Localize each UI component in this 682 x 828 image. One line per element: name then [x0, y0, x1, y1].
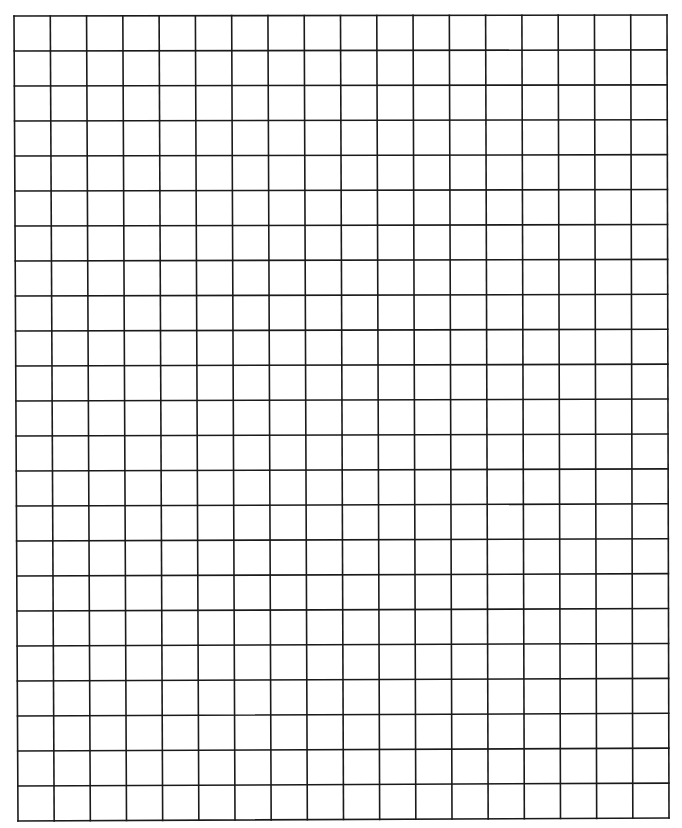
- grid-vertical-line: [304, 16, 307, 820]
- grid-horizontal-line: [16, 504, 668, 506]
- grid-horizontal-line: [14, 50, 667, 51]
- grid-horizontal-line: [16, 329, 668, 331]
- grid: [0, 0, 682, 828]
- grid-vertical-line: [667, 15, 669, 818]
- grid-vertical-line: [449, 15, 452, 819]
- grid-vertical-line: [87, 16, 91, 821]
- grid-vertical-line: [377, 15, 380, 819]
- grid-vertical-line: [14, 16, 18, 821]
- grid-lines: [14, 15, 669, 821]
- grid-vertical-line: [413, 15, 416, 819]
- grid-vertical-line: [123, 16, 127, 821]
- grid-vertical-line: [232, 16, 235, 820]
- graph-paper-page: [0, 0, 682, 828]
- grid-horizontal-line: [15, 294, 667, 296]
- grid-vertical-line: [50, 16, 54, 821]
- grid-vertical-line: [594, 15, 596, 818]
- grid-horizontal-line: [15, 155, 668, 156]
- grid-horizontal-line: [16, 364, 668, 366]
- grid-vertical-line: [522, 15, 524, 818]
- grid-horizontal-line: [15, 120, 668, 121]
- grid-horizontal-line: [14, 15, 667, 16]
- grid-horizontal-line: [16, 434, 668, 436]
- grid-horizontal-line: [15, 190, 668, 191]
- grid-vertical-line: [631, 15, 633, 818]
- grid-vertical-line: [195, 16, 198, 820]
- grid-vertical-line: [159, 16, 163, 821]
- grid-horizontal-line: [14, 85, 667, 86]
- grid-vertical-line: [268, 16, 271, 820]
- grid-horizontal-line: [15, 259, 667, 261]
- grid-horizontal-line: [16, 399, 668, 401]
- grid-horizontal-line: [16, 469, 668, 471]
- grid-vertical-line: [341, 16, 344, 820]
- grid-vertical-line: [558, 15, 560, 818]
- grid-vertical-line: [486, 15, 489, 819]
- grid-horizontal-line: [15, 224, 667, 226]
